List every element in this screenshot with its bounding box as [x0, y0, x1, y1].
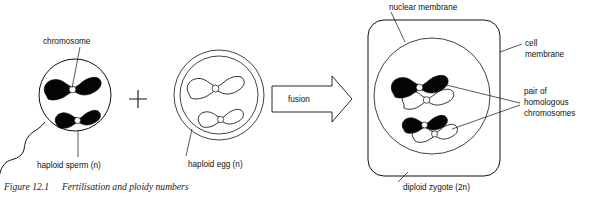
label-haploid-egg: haploid egg (n) — [188, 160, 243, 169]
centromere — [217, 116, 223, 122]
centromere — [416, 84, 423, 91]
sperm-cell-group: chromosome haploid sperm (n) — [0, 37, 111, 182]
centromere — [432, 131, 438, 137]
plus-sign-icon — [129, 90, 147, 108]
caption-title: Fertilisation and ploidy numbers — [61, 181, 189, 192]
fertilisation-diagram: chromosome haploid sperm (n) — [0, 0, 591, 198]
caption-number: Figure 12.1 — [3, 181, 49, 192]
egg-cell-group: haploid egg (n) — [174, 50, 264, 169]
label-haploid-sperm: haploid sperm (n) — [37, 161, 101, 170]
diploid-zygote-leader-line — [398, 172, 408, 182]
label-nuclear-membrane: nuclear membrane — [389, 3, 458, 12]
zygote-chromosome-pair-2 — [402, 115, 457, 142]
label-cell-membrane-line1: cell — [525, 39, 537, 48]
fusion-arrow-icon — [272, 76, 352, 122]
cell-membrane-leader-line — [500, 44, 522, 52]
egg-chromosome-2 — [198, 109, 243, 127]
plus-operator — [129, 90, 147, 108]
label-homologous-line3: chromosomes — [524, 109, 575, 118]
homologous-leader-line-2 — [452, 105, 520, 129]
label-chromosome: chromosome — [43, 37, 91, 46]
figure-caption: Figure 12.1 Fertilisation and ploidy num… — [3, 181, 189, 192]
sperm-tail — [0, 122, 45, 182]
egg-outer-membrane — [174, 50, 264, 140]
figure-container: chromosome haploid sperm (n) — [0, 0, 591, 198]
fusion-arrow-group: fusion — [272, 76, 352, 122]
centromere — [74, 117, 80, 123]
label-fusion: fusion — [288, 95, 310, 104]
haploid-egg-leader-line — [186, 129, 192, 156]
centromere — [212, 85, 219, 92]
label-diploid-zygote: diploid zygote (2n) — [403, 183, 470, 192]
sperm-chromosome-1 — [44, 77, 101, 100]
zygote-chromosome-pair-1 — [391, 75, 454, 109]
chromosome-leader-line — [72, 47, 80, 88]
label-cell-membrane-line2: membrane — [525, 50, 565, 59]
egg-chromosome-1 — [187, 76, 244, 99]
nuclear-membrane-leader-line — [391, 12, 405, 42]
centromere — [422, 122, 428, 128]
label-homologous-line1: pair of — [524, 87, 547, 96]
centromere — [423, 97, 430, 104]
label-homologous-line2: homologous — [524, 98, 569, 107]
zygote-cell-group: nuclear membrane cell membrane pair of h… — [368, 3, 575, 192]
